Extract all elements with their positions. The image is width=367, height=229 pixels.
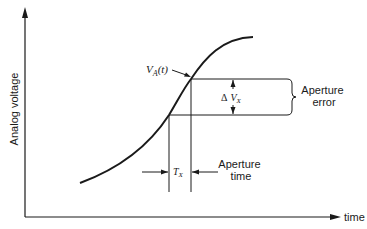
- x-axis: [25, 214, 341, 220]
- aperture-time-label: Aperture time: [218, 158, 263, 182]
- aperture-error-label: Aperture error: [301, 84, 346, 108]
- y-axis: [22, 7, 28, 217]
- x-axis-label: time: [344, 211, 365, 223]
- x-axis-arrow-icon: [330, 214, 341, 220]
- y-axis-label: Analog voltage: [8, 73, 20, 146]
- delta-down-arrow-icon: [231, 107, 236, 114]
- aperture-time-left-arrow-icon: [192, 170, 199, 175]
- delta-v-indicator: ΔVX: [221, 80, 242, 114]
- aperture-diagram: Analog voltage time VA(t) ΔVX Aperture e…: [0, 0, 367, 229]
- curve-pointer-arrow-icon: [184, 73, 191, 78]
- aperture-error-brace: [287, 79, 296, 115]
- curve-label: VA(t): [146, 63, 191, 78]
- svg-text:TX: TX: [173, 166, 184, 179]
- svg-text:ΔVX: ΔVX: [221, 92, 242, 105]
- aperture-time-right-arrow-icon: [161, 170, 168, 175]
- y-axis-arrow-icon: [22, 7, 28, 18]
- svg-text:VA(t): VA(t): [146, 63, 168, 78]
- aperture-time-indicator: TX: [142, 166, 218, 179]
- delta-up-arrow-icon: [231, 80, 236, 87]
